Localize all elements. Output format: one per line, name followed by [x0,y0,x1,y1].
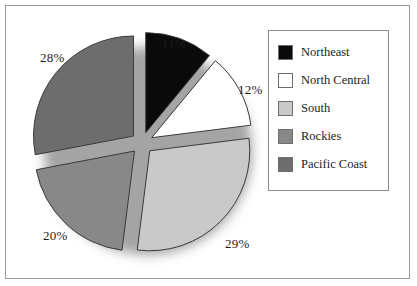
legend-label-south: South [301,102,330,115]
pie-label-pacific-coast: 28% [40,50,64,66]
legend-label-north-central: North Central [301,74,370,87]
pie-label-north-central: 12% [238,82,262,98]
legend-label-northeast: Northeast [301,46,350,59]
legend-item-pacific-coast[interactable]: Pacific Coast [278,150,382,178]
pie-label-south: 29% [225,236,249,252]
legend-label-rockies: Rockies [301,130,341,143]
pie-label-northeast: 11% [162,36,186,52]
legend-item-south[interactable]: South [278,94,382,122]
legend-item-rockies[interactable]: Rockies [278,122,382,150]
chart-figure: 11% 12% 29% 20% 28% Northeast North Cent… [0,0,417,286]
legend-swatch-pacific-coast [278,157,293,172]
chart-legend: Northeast North Central South Rockies Pa… [268,30,389,191]
legend-label-pacific-coast: Pacific Coast [301,158,367,171]
legend-item-northeast[interactable]: Northeast [278,38,382,66]
pie-chart: 11% 12% 29% 20% 28% [10,12,265,274]
legend-swatch-rockies [278,129,293,144]
legend-item-north-central[interactable]: North Central [278,66,382,94]
pie-label-rockies: 20% [43,228,67,244]
legend-swatch-north-central [278,73,293,88]
pie-slice-south[interactable] [137,138,250,251]
legend-swatch-south [278,101,293,116]
legend-swatch-northeast [278,45,293,60]
